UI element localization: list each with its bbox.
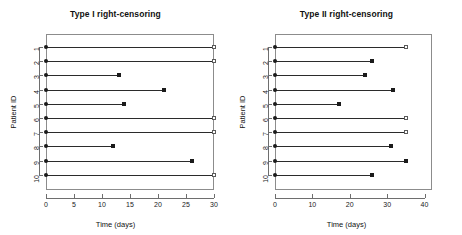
plot-frame — [46, 34, 214, 190]
followup-segment — [275, 146, 391, 147]
event-marker — [190, 159, 194, 163]
y-axis-line — [268, 47, 269, 175]
y-axis-tick — [39, 90, 43, 91]
censored-marker — [404, 45, 408, 49]
followup-segment — [46, 47, 214, 48]
x-axis-tick-label: 15 — [115, 201, 145, 208]
x-axis-tick-label: 10 — [297, 201, 327, 208]
x-axis-tick — [130, 194, 131, 198]
x-axis-tick-label: 20 — [335, 201, 365, 208]
x-axis-tick-label: 30 — [372, 201, 402, 208]
y-axis-tick-label: 2 — [33, 61, 40, 65]
y-axis-tick — [268, 104, 272, 105]
x-axis-title: Time (days) — [0, 220, 231, 229]
y-axis-tick — [268, 90, 272, 91]
followup-segment — [275, 118, 406, 119]
followup-segment — [46, 161, 192, 162]
y-axis-tick-label: 6 — [262, 118, 269, 122]
y-axis-tick-label: 8 — [262, 146, 269, 150]
entry-point-marker — [44, 159, 48, 163]
y-axis-tick — [39, 75, 43, 76]
followup-segment — [275, 90, 393, 91]
event-marker — [162, 88, 166, 92]
y-axis-tick-label: 4 — [33, 90, 40, 94]
followup-segment — [275, 104, 339, 105]
y-axis-title: Patient ID — [9, 96, 18, 129]
x-axis-tick-label: 10 — [87, 201, 117, 208]
y-axis-title: Patient ID — [238, 96, 247, 129]
censored-marker — [212, 59, 216, 63]
x-axis-line — [275, 198, 425, 199]
y-axis-tick — [268, 175, 272, 176]
y-axis-tick-label: 6 — [33, 118, 40, 122]
followup-segment — [46, 75, 119, 76]
y-axis-tick — [268, 47, 272, 48]
y-axis-tick-label: 5 — [33, 104, 40, 108]
y-axis-tick — [268, 146, 272, 147]
entry-point-marker — [44, 173, 48, 177]
y-axis-tick-label: 3 — [262, 75, 269, 79]
panel-title: Type II right-censoring — [231, 9, 462, 19]
followup-segment — [46, 61, 214, 62]
followup-segment — [46, 146, 113, 147]
followup-segment — [275, 132, 406, 133]
panel-type-1: Type I right-censoring 051015202530 1234… — [0, 0, 231, 235]
event-marker — [337, 102, 341, 106]
y-axis-tick — [39, 146, 43, 147]
y-axis-tick — [39, 175, 43, 176]
entry-point-marker — [273, 173, 277, 177]
entry-point-marker — [44, 116, 48, 120]
y-axis-tick — [39, 161, 43, 162]
censored-marker — [212, 45, 216, 49]
event-marker — [117, 73, 121, 77]
censored-marker — [404, 130, 408, 134]
followup-segment — [46, 90, 164, 91]
censored-marker — [212, 130, 216, 134]
x-axis-tick — [158, 194, 159, 198]
x-axis-tick-label: 5 — [59, 201, 89, 208]
y-axis-tick — [39, 104, 43, 105]
event-marker — [370, 59, 374, 63]
y-axis-tick-label: 10 — [33, 175, 40, 183]
followup-segment — [46, 132, 214, 133]
x-axis-tick — [102, 194, 103, 198]
y-axis-tick-label: 8 — [33, 146, 40, 150]
y-axis-tick — [39, 47, 43, 48]
censored-marker — [212, 173, 216, 177]
y-axis-tick — [268, 161, 272, 162]
y-axis-line — [39, 47, 40, 175]
x-axis-tick — [74, 194, 75, 198]
x-axis-tick — [46, 194, 47, 198]
entry-point-marker — [273, 88, 277, 92]
followup-segment — [46, 175, 214, 176]
entry-point-marker — [273, 159, 277, 163]
y-axis-tick-label: 1 — [33, 47, 40, 51]
x-axis-tick — [275, 194, 276, 198]
y-axis-tick-label: 1 — [262, 47, 269, 51]
y-axis-tick — [268, 75, 272, 76]
y-axis-tick-label: 3 — [33, 75, 40, 79]
y-axis-tick — [268, 132, 272, 133]
event-marker — [391, 88, 395, 92]
followup-segment — [275, 175, 372, 176]
x-axis-tick-label: 0 — [31, 201, 61, 208]
censored-marker — [212, 116, 216, 120]
y-axis-tick-label: 7 — [33, 132, 40, 136]
entry-point-marker — [44, 88, 48, 92]
entry-point-marker — [44, 102, 48, 106]
event-marker — [363, 73, 367, 77]
entry-point-marker — [273, 116, 277, 120]
followup-segment — [275, 47, 406, 48]
y-axis-tick — [268, 118, 272, 119]
censored-marker — [404, 116, 408, 120]
x-axis-line — [46, 198, 214, 199]
y-axis-tick — [39, 61, 43, 62]
event-marker — [122, 102, 126, 106]
y-axis-tick-label: 9 — [33, 161, 40, 165]
event-marker — [389, 144, 393, 148]
y-axis-tick-label: 4 — [262, 90, 269, 94]
x-axis-tick-label: 40 — [410, 201, 440, 208]
x-axis-tick-label: 0 — [260, 201, 290, 208]
x-axis-title: Time (days) — [231, 220, 462, 229]
x-axis-tick-label: 30 — [199, 201, 229, 208]
